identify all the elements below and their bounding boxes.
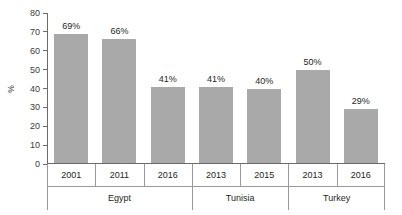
table-rule-vertical-year [47, 164, 48, 186]
bar-value-label: 66% [90, 25, 148, 38]
year-label-cell: 2011 [95, 164, 143, 186]
bar-column: 41% [199, 13, 233, 164]
bar [344, 109, 378, 164]
y-axis-tick-label: 50 [30, 64, 40, 76]
bar [102, 39, 136, 164]
y-axis-tick: 30 [0, 101, 47, 113]
group-label-cell: Turkey [288, 186, 385, 210]
bar [296, 70, 330, 164]
bar [54, 34, 88, 164]
y-axis-tick: 70 [0, 26, 47, 38]
group-label-cell: Tunisia [192, 186, 289, 210]
bar-value-label: 40% [235, 75, 293, 88]
y-axis-tick: 0 [0, 158, 47, 170]
group-label-cell: Egypt [47, 186, 192, 210]
table-rule-vertical-year [192, 164, 193, 186]
y-axis-tick: 80 [0, 7, 47, 19]
year-label-cell: 2016 [337, 164, 385, 186]
year-label-cell: 2016 [144, 164, 192, 186]
table-rule-vertical-year [95, 164, 96, 186]
y-axis-tick: 40 [0, 83, 47, 95]
bar-value-label: 29% [332, 95, 390, 108]
group-label: Egypt [47, 186, 192, 210]
year-label: 2013 [288, 164, 336, 186]
category-table: 2001201120162013201520132016 EgyptTunisi… [47, 164, 385, 210]
plot-area: 69%66%41%41%40%50%29% [47, 13, 385, 164]
bar-column: 41% [151, 13, 185, 164]
group-label: Tunisia [192, 186, 289, 210]
y-axis-tick-label: 70 [30, 26, 40, 38]
bar-column: 40% [247, 13, 281, 164]
y-axis-tick-label: 80 [30, 7, 40, 19]
table-rule-vertical-year [240, 164, 241, 186]
y-axis-tick-label: 20 [30, 120, 40, 132]
y-axis-tick-label: 0 [35, 158, 40, 170]
y-axis-tick-label: 30 [30, 101, 40, 113]
year-label: 2013 [192, 164, 240, 186]
year-label-cell: 2015 [240, 164, 288, 186]
y-axis-tick: 20 [0, 120, 47, 132]
y-axis-tick: 10 [0, 139, 47, 151]
year-label-cell: 2001 [47, 164, 95, 186]
group-label-row: EgyptTunisiaTurkey [47, 186, 385, 210]
y-axis-tick: 60 [0, 45, 47, 57]
table-rule-vertical-year [288, 164, 289, 186]
y-axis-tick-label: 40 [30, 83, 40, 95]
table-rule-vertical-group [384, 186, 385, 210]
year-label-row: 2001201120162013201520132016 [47, 164, 385, 186]
year-label: 2001 [47, 164, 95, 186]
bar-value-label: 50% [284, 56, 342, 69]
bar [247, 89, 281, 165]
bar-column: 29% [344, 13, 378, 164]
bar [151, 87, 185, 164]
bar-column: 69% [54, 13, 88, 164]
year-label-cell: 2013 [192, 164, 240, 186]
y-axis-tick-label: 10 [30, 139, 40, 151]
table-rule-vertical-year [144, 164, 145, 186]
bar-chart-figure: % 01020304050607080 69%66%41%41%40%50%29… [0, 0, 402, 215]
year-label: 2015 [240, 164, 288, 186]
year-label: 2016 [144, 164, 192, 186]
year-label-cell: 2013 [288, 164, 336, 186]
year-label: 2011 [95, 164, 143, 186]
table-rule-vertical-group [47, 186, 48, 210]
bar [199, 87, 233, 164]
table-rule-vertical-group [288, 186, 289, 210]
group-label: Turkey [288, 186, 385, 210]
bar-column: 50% [296, 13, 330, 164]
y-axis-tick: 50 [0, 64, 47, 76]
year-label: 2016 [337, 164, 385, 186]
table-rule-vertical-year [337, 164, 338, 186]
y-axis-tick-label: 60 [30, 45, 40, 57]
table-rule-vertical-year [384, 164, 385, 186]
table-rule-vertical-group [192, 186, 193, 210]
bar-column: 66% [102, 13, 136, 164]
table-rule-horizontal [47, 186, 385, 187]
